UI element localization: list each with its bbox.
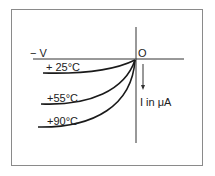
curve-label-90c: +90°C [47, 115, 78, 127]
current-axis-label: I in μA [140, 96, 172, 108]
curve-label-55c: +55°C [47, 92, 78, 104]
arrow-head-icon [141, 85, 145, 90]
reverse-bias-iv-diagram: − V O I in μA + 25°C +55°C +90°C [0, 0, 215, 176]
origin-label: O [138, 47, 147, 59]
curve-label-25c: + 25°C [46, 61, 80, 73]
diagram-frame [12, 10, 203, 166]
negative-voltage-label: − V [30, 47, 47, 59]
